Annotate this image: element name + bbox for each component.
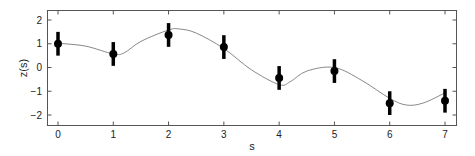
point-marker [220, 43, 228, 51]
y-axis-label: z(s) [17, 59, 29, 77]
data-point [275, 66, 283, 90]
point-marker [441, 97, 449, 105]
data-point [441, 89, 449, 113]
fitted-curve [58, 29, 445, 106]
data-point [330, 59, 338, 83]
data-points [54, 23, 449, 115]
x-tick-label: 1 [111, 129, 117, 140]
point-marker [330, 67, 338, 75]
point-marker [275, 74, 283, 82]
data-point [220, 35, 228, 59]
y-tick-label: 1 [36, 38, 42, 49]
x-tick-label: 2 [166, 129, 172, 140]
x-tick-label: 7 [442, 129, 448, 140]
point-marker [54, 40, 62, 48]
point-marker [165, 31, 173, 39]
y-tick-label: 0 [36, 62, 42, 73]
x-tick-label: 3 [221, 129, 227, 140]
point-marker [386, 99, 394, 107]
x-tick-label: 5 [332, 129, 338, 140]
x-axis-label: s [249, 140, 255, 152]
data-point [386, 91, 394, 115]
chart: −2−1012 01234567 s z(s) [0, 0, 475, 156]
y-tick-label: 2 [36, 15, 42, 26]
data-point [165, 23, 173, 47]
y-tick-label: −1 [31, 86, 43, 97]
y-tick-label: −2 [31, 110, 43, 121]
x-axis: 01234567 [55, 11, 448, 141]
data-point [54, 32, 62, 56]
x-tick-label: 4 [276, 129, 282, 140]
point-marker [109, 50, 117, 58]
plot-frame [48, 11, 457, 126]
x-tick-label: 0 [55, 129, 61, 140]
x-tick-label: 6 [387, 129, 393, 140]
data-point [109, 42, 117, 66]
